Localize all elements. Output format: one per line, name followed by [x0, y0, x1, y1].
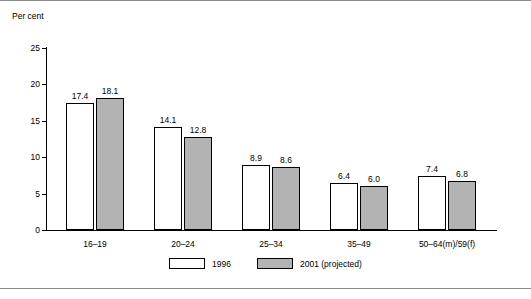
category-label-1: 20–24: [171, 239, 195, 249]
bar-2001-4[interactable]: 6.8: [448, 181, 476, 231]
y-tick-label-2: 10: [31, 152, 40, 162]
x-axis-line: [46, 230, 497, 231]
bar-value-2001-0: 18.1: [102, 86, 119, 96]
bar-2001-3[interactable]: 6.0: [360, 186, 388, 230]
legend-item-1996[interactable]: 1996: [169, 258, 231, 269]
bar-group-4: 7.4 6.8 50–64(m)/59(f): [406, 46, 488, 230]
y-tick-label-0: 0: [35, 225, 40, 235]
bar-value-1996-4: 7.4: [426, 164, 438, 174]
bar-2001-1[interactable]: 12.8: [184, 137, 212, 230]
bar-1996-1[interactable]: 14.1: [154, 127, 182, 230]
bar-value-1996-3: 6.4: [338, 171, 350, 181]
category-label-0: 16–19: [83, 239, 107, 249]
y-tick-label-5: 25: [31, 43, 40, 53]
plot-area: 0 5 10 15 20 25: [46, 47, 497, 231]
category-label-2: 25–34: [259, 239, 283, 249]
category-label-3: 35–49: [347, 239, 371, 249]
bar-value-2001-4: 6.8: [456, 169, 468, 179]
top-divider: [0, 0, 531, 1]
y-axis-line: [46, 47, 47, 231]
bar-group-2: 8.9 8.6 25–34: [230, 46, 312, 230]
legend-label-1996: 1996: [212, 259, 231, 269]
legend-item-2001[interactable]: 2001 (projected): [257, 258, 362, 269]
bar-group-3: 6.4 6.0 35–49: [318, 46, 400, 230]
y-tick-label-3: 15: [31, 116, 40, 126]
bar-value-2001-3: 6.0: [368, 174, 380, 184]
bar-2001-0[interactable]: 18.1: [96, 98, 124, 230]
category-label-4: 50–64(m)/59(f): [419, 239, 475, 249]
legend-swatch-1996: [169, 258, 205, 269]
bar-1996-3[interactable]: 6.4: [330, 183, 358, 230]
bar-chart: Per cent 0 5 10 15 20: [0, 0, 531, 299]
bar-group-1: 14.1 12.8 20–24: [142, 46, 224, 230]
chart-legend: 1996 2001 (projected): [0, 258, 531, 269]
bar-2001-2[interactable]: 8.6: [272, 167, 300, 230]
bar-value-1996-1: 14.1: [160, 115, 177, 125]
bottom-divider: [0, 288, 531, 289]
y-axis-title: Per cent: [12, 11, 44, 21]
y-tick-label-1: 5: [35, 189, 40, 199]
bar-value-1996-2: 8.9: [250, 153, 262, 163]
legend-swatch-2001: [257, 258, 293, 269]
bar-1996-0[interactable]: 17.4: [66, 103, 94, 230]
bar-value-1996-0: 17.4: [72, 91, 89, 101]
legend-label-2001: 2001 (projected): [300, 259, 362, 269]
bar-1996-4[interactable]: 7.4: [418, 176, 446, 230]
bar-value-2001-1: 12.8: [190, 125, 207, 135]
bar-value-2001-2: 8.6: [280, 155, 292, 165]
bar-1996-2[interactable]: 8.9: [242, 165, 270, 230]
y-tick-label-4: 20: [31, 79, 40, 89]
bar-group-0: 17.4 18.1 16–19: [54, 46, 136, 230]
